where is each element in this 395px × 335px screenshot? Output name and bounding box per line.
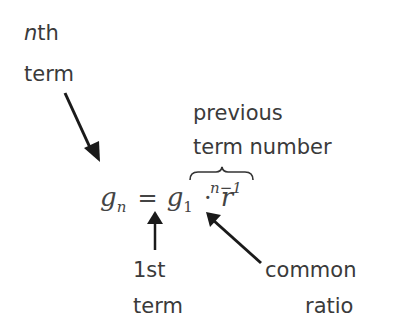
label-first: 1st — [133, 260, 166, 281]
label-previous: previous — [193, 103, 283, 124]
label-nth-rest: th — [37, 21, 59, 45]
label-ratio: ratio — [305, 296, 353, 317]
label-first-term: term — [133, 296, 183, 317]
label-term-number: term number — [193, 137, 332, 158]
formula-equals: = — [137, 184, 157, 212]
label-nth-term-line1: nth — [24, 23, 59, 44]
label-common: common — [265, 260, 356, 281]
arrow-nth-term-icon — [65, 93, 100, 162]
annotation-arrows — [0, 0, 395, 335]
formula-lhs-var: g — [100, 182, 117, 212]
formula-exponent: n−1 — [210, 181, 242, 196]
arrow-first-term-icon — [147, 211, 163, 250]
formula-lhs-sub: n — [117, 198, 127, 216]
formula-first-var: g — [167, 182, 184, 212]
formula-first-sub: 1 — [183, 198, 193, 216]
arrow-common-ratio-icon — [206, 212, 261, 263]
label-nth-italic: n — [24, 21, 37, 45]
label-nth-term-line2: term — [24, 64, 74, 85]
